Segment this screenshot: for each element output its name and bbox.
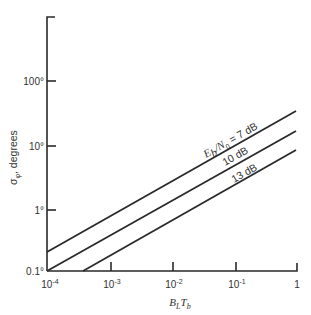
x-tick-label-1e-3: 10-3 [103,278,120,290]
x-tick-label-1: 1 [294,279,300,290]
series-7db-line [47,111,296,252]
y-tick-label-0.1: 0.1° [26,266,44,277]
x-axis-label: BLTb [169,296,190,311]
y-tick-label-100: 100° [23,76,44,87]
y-axis [47,17,55,271]
chart: 0.1° 1° 10° 100° 10-4 10-3 10-2 10-1 1 B… [0,0,311,315]
y-tick-label-1: 1° [34,205,44,216]
x-tick-label-1e-4: 10-4 [41,278,58,290]
y-axis-label: σφ, degrees [7,130,22,185]
x-tick-label-1e-2: 10-2 [165,278,182,290]
axes [47,17,297,271]
series-10db-line [47,131,296,271]
series-13db-line [83,150,296,271]
series-13db-label: 13 dB [229,161,259,185]
x-tick-label-1e-1: 10-1 [228,278,245,290]
y-tick-label-10: 10° [29,141,44,152]
series-lines [47,111,296,271]
